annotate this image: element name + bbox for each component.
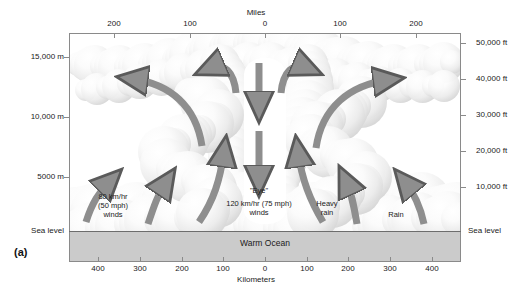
bottom-tick-label-8: 400 [412, 264, 452, 273]
tick-mark [460, 115, 466, 116]
bottom-tick-label-4: 0 [245, 264, 285, 273]
bottom-axis-title: Kilometers [236, 275, 276, 284]
tick-mark [460, 151, 466, 152]
left-tick-label-0: 15,000 m [0, 52, 72, 61]
rain-label: Rain [378, 210, 414, 219]
bottom-tick-label-5: 100 [287, 264, 327, 273]
tick-mark [390, 257, 391, 262]
cloud-puff [428, 70, 460, 102]
tick-mark [98, 257, 99, 262]
tick-mark [348, 257, 349, 262]
bottom-tick-label-7: 300 [370, 264, 410, 273]
tick-mark [190, 33, 191, 38]
top-tick-label-3: 100 [320, 19, 360, 28]
right-tick-label-2: 30,000 ft [468, 110, 512, 119]
bottom-tick-label-3: 100 [203, 264, 243, 273]
bottom-tick-label-6: 200 [328, 264, 368, 273]
tick-mark [182, 257, 183, 262]
ocean-label: Warm Ocean [70, 238, 460, 248]
bottom-tick-label-2: 200 [162, 264, 202, 273]
right-tick-label-0: 50,000 ft [468, 38, 512, 47]
eye-label: "Eye" [229, 186, 289, 195]
right-tick-label-1: 40,000 ft [468, 74, 512, 83]
tick-mark [140, 257, 141, 262]
tick-mark [223, 257, 224, 262]
left-tick-label-2: 5000 m [0, 172, 72, 181]
sea-level-label-right: Sea level [468, 226, 512, 235]
bottom-tick-label-1: 300 [120, 264, 160, 273]
tick-mark [114, 33, 115, 38]
top-tick-label-0: 200 [94, 19, 134, 28]
tick-mark [340, 33, 341, 38]
tick-mark [460, 79, 466, 80]
tick-mark [460, 43, 466, 44]
tick-mark [307, 257, 308, 262]
bottom-tick-label-0: 400 [78, 264, 118, 273]
tick-mark [265, 257, 266, 262]
hurricane-cross-section-figure: Warm Ocean [0, 0, 512, 297]
tick-mark [432, 257, 433, 262]
sea-level-label-left: Sea level [0, 226, 64, 235]
top-tick-label-2: 0 [245, 19, 285, 28]
right-tick-label-4: 10,000 ft [468, 182, 512, 191]
right-tick-label-3: 20,000 ft [468, 146, 512, 155]
sea-level-line [69, 231, 461, 232]
top-tick-label-4: 200 [396, 19, 436, 28]
outer-wind-label-line3: winds [85, 210, 141, 219]
top-tick-label-1: 100 [170, 19, 210, 28]
outer-wind-label-line1: 80 km/hr [85, 192, 141, 201]
figure-letter: (a) [14, 246, 27, 258]
outer-wind-label-line2: (50 mph) [85, 201, 141, 210]
tick-mark [416, 33, 417, 38]
heavy-rain-label-line1: Heavy [305, 199, 349, 208]
eyewall-wind-label-line1: 120 km/hr (75 mph) [199, 199, 319, 208]
tick-mark [265, 33, 266, 38]
left-tick-label-1: 10,000 m [0, 112, 72, 121]
eyewall-wind-label-line2: winds [199, 208, 319, 217]
top-axis-title: Miles [236, 8, 276, 17]
heavy-rain-label-line2: rain [305, 208, 349, 217]
tick-mark [460, 187, 466, 188]
